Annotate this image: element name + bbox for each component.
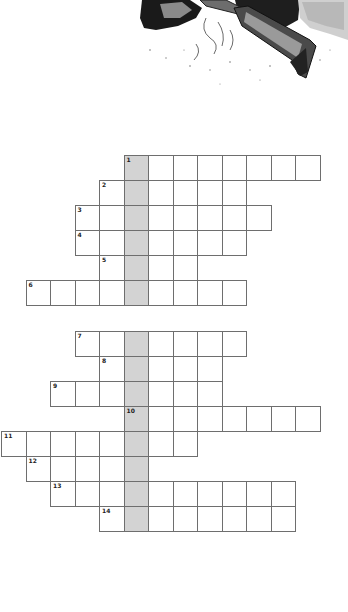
crossword-cell[interactable]: 14 [99,506,125,532]
crossword-cell[interactable] [148,481,174,507]
crossword-cell[interactable] [197,230,223,256]
crossword-cell[interactable] [222,331,248,357]
crossword-cell[interactable] [197,205,223,231]
crossword-cell[interactable] [148,406,174,432]
crossword-cell[interactable] [75,431,101,457]
crossword-cell[interactable] [173,481,199,507]
crossword-cell-shaded[interactable] [124,230,150,256]
crossword-cell[interactable]: 11 [1,431,27,457]
crossword-cell-shaded[interactable]: 10 [124,406,150,432]
crossword-cell[interactable] [271,406,297,432]
crossword-cell-shaded[interactable] [124,180,150,206]
crossword-cell[interactable] [222,406,248,432]
crossword-cell-shaded[interactable] [124,356,150,382]
crossword-cell-shaded[interactable] [124,456,150,482]
crossword-cell[interactable] [271,506,297,532]
crossword-cell[interactable] [222,230,248,256]
crossword-cell[interactable] [197,331,223,357]
crossword-cell[interactable] [148,230,174,256]
crossword-cell[interactable] [148,506,174,532]
crossword-cell[interactable] [99,280,125,306]
crossword-cell[interactable] [197,406,223,432]
crossword-cell[interactable]: 8 [99,356,125,382]
crossword-cell-shaded[interactable] [124,481,150,507]
crossword-cell[interactable]: 12 [26,456,52,482]
crossword-cell[interactable] [148,431,174,457]
crossword-cell[interactable] [173,155,199,181]
crossword-cell[interactable] [50,456,76,482]
crossword-cell[interactable] [173,205,199,231]
crossword-cell[interactable] [246,481,272,507]
crossword-cell[interactable]: 9 [50,381,76,407]
crossword-cell[interactable] [148,331,174,357]
crossword-cell[interactable]: 7 [75,331,101,357]
crossword-cell[interactable] [50,280,76,306]
crossword-cell[interactable] [75,456,101,482]
crossword-cell[interactable] [246,205,272,231]
crossword-cell-shaded[interactable] [124,205,150,231]
crossword-cell[interactable] [26,431,52,457]
crossword-cell[interactable] [173,255,199,281]
crossword-cell[interactable] [246,155,272,181]
crossword-cell[interactable] [197,481,223,507]
crossword-cell[interactable] [173,506,199,532]
crossword-cell[interactable] [295,155,321,181]
crossword-cell[interactable] [222,481,248,507]
crossword-cell[interactable]: 2 [99,180,125,206]
crossword-cell[interactable] [222,280,248,306]
crossword-cell[interactable] [246,406,272,432]
crossword-cell-shaded[interactable] [124,506,150,532]
crossword-cell[interactable]: 13 [50,481,76,507]
crossword-cell[interactable] [99,456,125,482]
crossword-cell[interactable] [222,155,248,181]
crossword-cell[interactable] [197,356,223,382]
crossword-cell[interactable] [148,155,174,181]
crossword-cell-shaded[interactable] [124,280,150,306]
crossword-cell[interactable] [197,155,223,181]
crossword-cell[interactable] [173,356,199,382]
crossword-cell[interactable] [222,506,248,532]
crossword-cell[interactable] [173,406,199,432]
crossword-cell[interactable]: 3 [75,205,101,231]
crossword-cell-shaded[interactable]: 1 [124,155,150,181]
crossword-cell[interactable] [148,205,174,231]
crossword-cell[interactable] [75,381,101,407]
crossword-cell[interactable] [99,481,125,507]
crossword-cell[interactable] [173,431,199,457]
crossword-cell[interactable] [75,481,101,507]
crossword-cell[interactable] [222,205,248,231]
crossword-cell[interactable] [173,230,199,256]
crossword-cell[interactable] [148,180,174,206]
crossword-cell[interactable] [173,180,199,206]
crossword-cell-shaded[interactable] [124,255,150,281]
crossword-cell[interactable] [295,406,321,432]
crossword-cell-shaded[interactable] [124,331,150,357]
crossword-cell[interactable] [148,255,174,281]
crossword-cell[interactable]: 6 [26,280,52,306]
crossword-cell[interactable] [197,506,223,532]
crossword-cell-shaded[interactable] [124,431,150,457]
crossword-cell[interactable] [222,180,248,206]
crossword-cell[interactable] [148,381,174,407]
crossword-cell[interactable] [173,280,199,306]
crossword-cell[interactable] [173,331,199,357]
crossword-cell[interactable] [148,280,174,306]
crossword-cell[interactable]: 4 [75,230,101,256]
crossword-cell[interactable] [75,280,101,306]
crossword-cell[interactable] [246,506,272,532]
crossword-cell[interactable] [99,331,125,357]
crossword-cell[interactable] [197,381,223,407]
crossword-cell[interactable] [173,381,199,407]
crossword-cell-shaded[interactable] [124,381,150,407]
crossword-cell[interactable] [99,381,125,407]
crossword-cell[interactable]: 5 [99,255,125,281]
crossword-cell[interactable] [197,280,223,306]
crossword-cell[interactable] [50,431,76,457]
crossword-cell[interactable] [271,481,297,507]
crossword-cell[interactable] [148,356,174,382]
crossword-cell[interactable] [99,205,125,231]
crossword-cell[interactable] [197,180,223,206]
crossword-cell[interactable] [271,155,297,181]
crossword-cell[interactable] [99,230,125,256]
crossword-cell[interactable] [99,431,125,457]
